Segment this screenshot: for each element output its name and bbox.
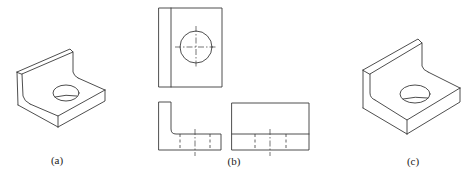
base-right-bottom [407, 88, 460, 134]
base-top-back-edge [78, 78, 105, 90]
hole-top-ellipse [400, 85, 430, 103]
side-view [159, 102, 221, 156]
panel-b-orthographic: (b) [159, 8, 309, 168]
technical-drawing: (a) (b) [0, 0, 473, 184]
hole-inner-edge [403, 97, 428, 99]
panel-b-label: (b) [228, 155, 241, 168]
side-view-outline [159, 102, 221, 150]
panel-a-label: (a) [51, 154, 64, 167]
panel-a-isometric: (a) [17, 49, 105, 167]
wall-right-edge [422, 43, 428, 72]
wall-top-face [363, 39, 422, 74]
wall-left-edge [17, 72, 18, 105]
base-top-front-edge [375, 88, 460, 120]
hole-top-ellipse [53, 85, 79, 101]
base-left-bottom [363, 108, 407, 134]
front-view [232, 103, 309, 156]
base-left-bottom [18, 105, 58, 127]
top-view-outline [159, 8, 222, 87]
base-top-front-edge [30, 90, 105, 116]
front-view-outline [232, 103, 309, 150]
wall-right-edge [73, 52, 78, 78]
wall-front-left-edge [370, 74, 375, 100]
hole-inner-edge [55, 95, 77, 97]
top-view [159, 8, 222, 87]
base-top-back-edge [428, 72, 460, 88]
panel-c-isometric: (c) [363, 39, 460, 168]
panel-c-label: (c) [407, 155, 420, 168]
wall-front-left-edge [22, 74, 30, 104]
wall-top-face [17, 49, 73, 74]
